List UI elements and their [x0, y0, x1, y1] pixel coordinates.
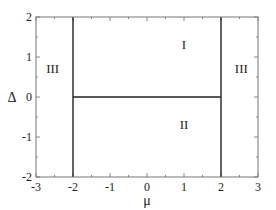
x-tick-label: 3 — [255, 180, 261, 194]
x-tick-label: 0 — [144, 180, 150, 194]
boundary-lines — [73, 17, 221, 177]
region-labels: IIIIIIIII — [46, 37, 248, 132]
y-tick-label: 2 — [26, 10, 32, 24]
x-axis-label: μ — [143, 193, 151, 208]
region-label-iii: III — [46, 61, 59, 76]
x-tick-label: -2 — [68, 180, 78, 194]
x-tick-label: 1 — [181, 180, 187, 194]
x-tick-label: 2 — [218, 180, 224, 194]
region-label-ii: II — [180, 117, 189, 132]
x-tick-labels: -3-2-10123 — [31, 180, 261, 194]
y-tick-label: 1 — [26, 50, 32, 64]
y-tick-label: 0 — [26, 90, 32, 104]
y-tick-label: -1 — [22, 130, 32, 144]
phase-diagram-chart: -3-2-10123 -2-1012 IIIIIIIII μ Δ — [0, 0, 276, 210]
x-tick-label: -3 — [31, 180, 41, 194]
y-tick-label: -2 — [22, 170, 32, 184]
region-label-i: I — [182, 37, 186, 52]
y-axis-label: Δ — [7, 90, 16, 105]
region-label-iii: III — [235, 61, 248, 76]
y-tick-labels: -2-1012 — [22, 10, 32, 184]
x-tick-label: -1 — [105, 180, 115, 194]
